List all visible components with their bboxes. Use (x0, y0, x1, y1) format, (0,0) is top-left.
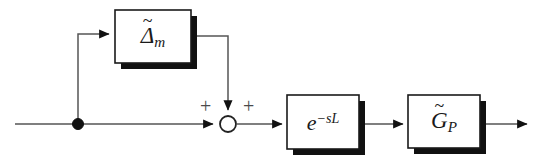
tilde-accent-icon: ~ (431, 98, 448, 116)
wire-branch-to-uncertainty (78, 34, 109, 124)
branch-point-dot (73, 119, 84, 130)
diagram-canvas (0, 0, 543, 165)
uncertainty-block-label: ~Δm (115, 24, 191, 49)
delay-block-label: e−sL (287, 111, 359, 134)
sum-sign-left: + (200, 96, 211, 116)
plant-label-subscript: P (448, 118, 457, 135)
sum-sign-right: + (243, 96, 254, 116)
delay-label-base: e (307, 110, 317, 135)
plant-label-glyph: ~G (431, 109, 448, 132)
uncertainty-label-subscript: m (154, 33, 165, 50)
tilde-accent-icon: ~ (141, 13, 155, 31)
summing-junction-circle[interactable] (220, 116, 236, 132)
uncertainty-label-glyph: ~Δ (141, 24, 155, 47)
delay-label-superscript: −sL (316, 110, 339, 126)
plant-block-label: ~GP (408, 109, 480, 134)
block-diagram: ~Δm e−sL ~GP + + (0, 0, 543, 165)
